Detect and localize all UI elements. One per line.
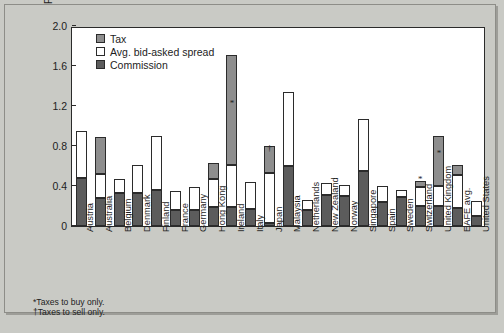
x-tick-label: United Kingdom	[443, 166, 453, 232]
bar-segment-tax	[264, 146, 275, 173]
legend-swatch-tax-icon	[96, 34, 105, 43]
bar-segment-spread	[95, 174, 106, 198]
y-tick-mark	[72, 25, 76, 26]
plot-area: Percent of transaction value 00.40.81.21…	[71, 27, 485, 227]
footnote-dagger: †Taxes to sell only.	[33, 307, 105, 317]
x-tick-label: Malaysia	[292, 195, 302, 232]
y-tick-label: 0	[36, 220, 72, 232]
x-tick-label: Singapore	[368, 190, 378, 232]
x-tick-label: Australia	[104, 196, 114, 232]
figure-plate: Percent of transaction value 00.40.81.21…	[4, 4, 496, 313]
footnotes: *Taxes to buy only. †Taxes to sell only.	[33, 297, 105, 317]
y-tick-label: 2.0	[36, 20, 72, 32]
x-tick-label: France	[180, 203, 190, 232]
legend-label-spread: Avg. bid-asked spread	[110, 46, 214, 58]
bar-segment-tax	[452, 165, 463, 175]
y-tick-label: 1.6	[36, 60, 72, 72]
x-tick-label: New Zealand	[330, 177, 340, 232]
x-tick-label: Spain	[387, 208, 397, 232]
legend-swatch-commission-icon	[96, 60, 105, 69]
y-tick-mark	[72, 105, 76, 106]
y-tick-label: 0.8	[36, 140, 72, 152]
legend-label-tax: Tax	[110, 33, 126, 45]
x-tick-label: Sweden	[405, 198, 415, 232]
plot-inner: Percent of transaction value 00.40.81.21…	[72, 28, 484, 226]
x-tick-label: Switzerland	[424, 184, 434, 232]
bar-segment-spread	[226, 165, 237, 207]
legend-item-commission: Commission	[96, 58, 214, 71]
bar-segment-spread	[358, 119, 369, 171]
footnote-asterisk: *Taxes to buy only.	[33, 297, 105, 307]
bar-ireland: *	[226, 55, 237, 226]
bar-segment-spread	[396, 190, 407, 197]
x-tick-label: Hong Kong	[217, 185, 227, 232]
legend-item-tax: Tax	[96, 32, 214, 45]
legend-label-commission: Commission	[110, 59, 168, 71]
x-tick-label: United States	[481, 176, 491, 232]
figure-container: Percent of transaction value 00.40.81.21…	[0, 0, 504, 333]
x-tick-label: Germany	[198, 194, 208, 232]
x-tick-label: Denmark	[142, 194, 152, 232]
legend-item-spread: Avg. bid-asked spread	[96, 45, 214, 58]
bar-segment-spread	[339, 185, 350, 196]
x-tick-label: Norway	[349, 200, 359, 232]
bar-segment-spread	[132, 165, 143, 193]
bar-segment-spread	[245, 182, 256, 209]
x-tick-label: Ireland	[236, 204, 246, 232]
bar-segment-spread	[377, 186, 388, 202]
y-tick-mark	[72, 65, 76, 66]
x-tick-label: Italy	[255, 215, 265, 232]
y-axis-title: Percent of transaction value	[42, 0, 56, 4]
y-tick-label: 1.2	[36, 100, 72, 112]
bar-segment-tax	[226, 55, 237, 165]
y-tick-label: 0.4	[36, 180, 72, 192]
x-tick-label: Japan	[274, 207, 284, 232]
bar-segment-spread	[151, 136, 162, 190]
bar-segment-tax	[208, 163, 219, 179]
x-tick-label: EAFE avg.	[462, 188, 472, 232]
bar-segment-spread	[283, 92, 294, 166]
bar-segment-spread	[76, 131, 87, 178]
bar-segment-tax	[95, 137, 106, 174]
legend-swatch-spread-icon	[96, 47, 105, 56]
x-tick-label: Finland	[161, 202, 171, 233]
chart-legend: Tax Avg. bid-asked spread Commission	[96, 32, 214, 71]
x-tick-label: Netherlands	[311, 182, 321, 232]
x-tick-label: Belgium	[123, 198, 133, 232]
bar-segment-spread	[114, 179, 125, 193]
x-tick-label: Austria	[85, 203, 95, 232]
